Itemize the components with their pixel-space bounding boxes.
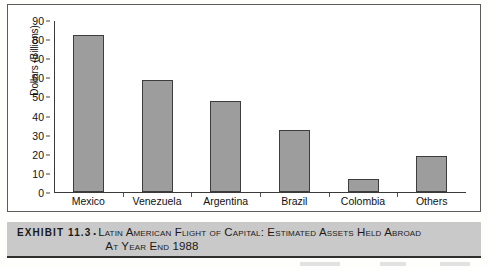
y-tick-label: 30 [32, 130, 44, 141]
exhibit-caption-band: EXHIBIT 11.3•Latin American Flight of Ca… [7, 222, 481, 256]
exhibit-number: EXHIBIT 11.3 [17, 227, 91, 238]
bar-series [54, 21, 466, 193]
y-tick-mark [46, 135, 50, 136]
scan-artifact [300, 262, 340, 266]
x-tick-label: Argentina [203, 195, 248, 207]
plot-area [54, 21, 466, 193]
y-tick-mark [46, 193, 50, 194]
y-tick-label: 80 [32, 35, 44, 46]
y-tick-label: 50 [32, 92, 44, 103]
y-axis-ticks: 0102030405060708090 [22, 21, 50, 193]
bar-brazil [279, 130, 310, 192]
y-tick-label: 40 [32, 111, 44, 122]
y-tick-mark [46, 78, 50, 79]
y-tick-mark [46, 173, 50, 174]
x-tick-label: Others [416, 195, 448, 207]
y-tick-mark [46, 21, 50, 22]
scan-artifact [380, 262, 406, 266]
x-tick-label: Brazil [281, 195, 307, 207]
y-tick-mark [46, 154, 50, 155]
y-tick-mark [46, 116, 50, 117]
y-tick-mark [46, 59, 50, 60]
bar-argentina [210, 101, 241, 192]
x-tick-label: Colombia [341, 195, 385, 207]
y-tick-label: 60 [32, 73, 44, 84]
y-tick-label: 90 [32, 16, 44, 27]
y-tick-label: 10 [32, 169, 44, 180]
caption-bottom-rule [7, 256, 481, 258]
bar-venezuela [142, 80, 173, 192]
x-axis-labels: MexicoVenezuelaArgentinaBrazilColombiaOt… [54, 195, 466, 211]
x-tick-label: Mexico [72, 195, 105, 207]
caption-title-line-2: At Year End 1988 [17, 240, 287, 253]
y-tick-mark [46, 40, 50, 41]
chart-plot-wrapper: Dollars (Billions) 0102030405060708090 M… [8, 5, 480, 211]
scan-artifact [440, 262, 470, 266]
bar-colombia [348, 179, 379, 192]
x-tick-label: Venezuela [132, 195, 181, 207]
caption-title-line-1: Latin American Flight of Capital: Estima… [98, 226, 421, 238]
bar-others [416, 156, 447, 192]
y-tick-label: 70 [32, 54, 44, 65]
exhibit-page: Dollars (Billions) 0102030405060708090 M… [0, 0, 489, 268]
bar-mexico [73, 35, 104, 192]
y-tick-label: 20 [32, 150, 44, 161]
y-tick-mark [46, 97, 50, 98]
chart-frame: Dollars (Billions) 0102030405060708090 M… [7, 4, 481, 212]
caption-line-1: EXHIBIT 11.3•Latin American Flight of Ca… [17, 226, 473, 240]
y-tick-label: 0 [38, 188, 44, 199]
